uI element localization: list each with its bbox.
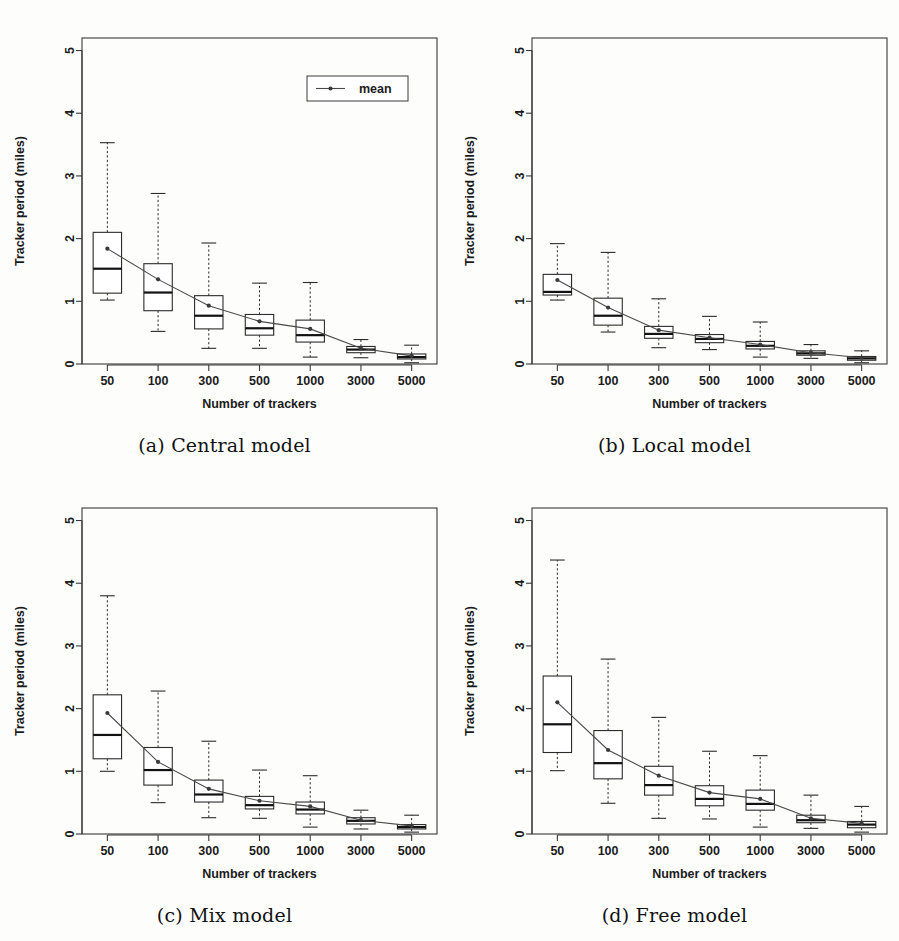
x-tick-label: 100 [598, 374, 619, 388]
panel-c-plot: 012345Tracker period (miles)501003005001… [0, 470, 449, 890]
y-axis-title: Tracker period (miles) [13, 606, 27, 736]
boxplot-box [695, 316, 723, 349]
panel-a-plot: 012345Tracker period (miles)501003005001… [0, 0, 449, 420]
mean-point [758, 342, 762, 346]
box-iqr [93, 695, 121, 759]
x-tick-label: 100 [598, 844, 619, 858]
y-tick-label: 5 [513, 517, 527, 524]
x-tick-label: 500 [249, 374, 270, 388]
mean-point [809, 816, 813, 820]
mean-point [606, 748, 610, 752]
x-axis-title: Number of trackers [652, 867, 767, 881]
x-tick-label: 300 [198, 374, 219, 388]
x-tick-label: 1000 [746, 374, 774, 388]
boxplot-box [847, 806, 875, 832]
mean-point [207, 787, 211, 791]
y-tick-label: 3 [63, 172, 77, 179]
mean-point [257, 319, 261, 323]
x-tick-label: 3000 [797, 844, 825, 858]
x-tick-label: 100 [148, 844, 169, 858]
panel-a-caption: (a) Central model [0, 434, 449, 456]
boxplot-box [296, 283, 324, 358]
x-tick-label: 3000 [797, 374, 825, 388]
y-tick-label: 1 [63, 768, 77, 775]
x-tick-label: 5000 [398, 374, 426, 388]
y-tick-label: 5 [63, 47, 77, 54]
x-tick-label: 500 [699, 844, 720, 858]
box-iqr [93, 232, 121, 293]
boxplot-box [543, 560, 571, 771]
x-tick-label: 5000 [398, 844, 426, 858]
boxplot-box [245, 283, 273, 348]
mean-point [410, 824, 414, 828]
legend: mean [307, 76, 408, 101]
panel-c-caption: (c) Mix model [0, 904, 449, 926]
x-tick-label: 300 [648, 374, 669, 388]
y-tick-label: 5 [513, 47, 527, 54]
boxplot-box [695, 751, 723, 819]
boxplot-box [594, 659, 622, 803]
mean-point [860, 356, 864, 360]
box-iqr [543, 676, 571, 752]
mean-point [860, 821, 864, 825]
boxplot-box [93, 143, 121, 300]
boxplot-box [245, 770, 273, 818]
x-tick-label: 500 [249, 844, 270, 858]
x-tick-label: 50 [550, 844, 564, 858]
y-tick-label: 4 [513, 110, 527, 117]
mean-point [156, 277, 160, 281]
x-tick-label: 1000 [296, 844, 324, 858]
boxplot-box [543, 244, 571, 300]
boxplot-box [144, 691, 172, 803]
mean-point [359, 346, 363, 350]
boxplot-box [93, 596, 121, 772]
y-tick-label: 0 [513, 360, 527, 367]
box-iqr [144, 264, 172, 311]
y-axis-title: Tracker period (miles) [463, 136, 477, 266]
x-tick-label: 300 [198, 844, 219, 858]
x-tick-label: 5000 [848, 374, 876, 388]
x-tick-label: 300 [648, 844, 669, 858]
mean-point [105, 247, 109, 251]
y-tick-label: 2 [513, 235, 527, 242]
boxplot-box [195, 741, 223, 817]
legend-label: mean [359, 82, 392, 96]
y-tick-label: 2 [63, 705, 77, 712]
x-tick-label: 50 [550, 374, 564, 388]
x-axis-title: Number of trackers [202, 867, 317, 881]
x-tick-label: 3000 [347, 374, 375, 388]
panel-free-model: 012345Tracker period (miles)501003005001… [450, 470, 899, 940]
x-tick-label: 1000 [746, 844, 774, 858]
boxplot-figure: 012345Tracker period (miles)501003005001… [0, 0, 899, 941]
mean-point [606, 305, 610, 309]
mean-point [657, 328, 661, 332]
y-tick-label: 1 [513, 298, 527, 305]
x-axis-title: Number of trackers [652, 397, 767, 411]
x-tick-label: 3000 [347, 844, 375, 858]
boxplot-box [144, 193, 172, 331]
boxplot-box [645, 299, 673, 348]
y-tick-label: 3 [63, 642, 77, 649]
plot-frame [82, 508, 437, 834]
panel-b-plot: 012345Tracker period (miles)501003005001… [450, 0, 899, 420]
mean-point [308, 327, 312, 331]
panel-local-model: 012345Tracker period (miles)501003005001… [450, 0, 899, 470]
x-tick-label: 500 [699, 374, 720, 388]
boxplot-box [195, 243, 223, 348]
boxplot-box [296, 776, 324, 827]
y-tick-label: 1 [513, 768, 527, 775]
mean-point [257, 799, 261, 803]
y-tick-label: 0 [513, 830, 527, 837]
y-tick-label: 4 [63, 580, 77, 587]
panel-d-caption: (d) Free model [450, 904, 899, 926]
mean-point [657, 774, 661, 778]
mean-point [555, 278, 559, 282]
mean-point [758, 797, 762, 801]
panel-mix-model: 012345Tracker period (miles)501003005001… [0, 470, 449, 940]
mean-point [707, 336, 711, 340]
boxplot-box [797, 795, 825, 828]
y-tick-label: 1 [63, 298, 77, 305]
panel-central-model: 012345Tracker period (miles)501003005001… [0, 0, 449, 470]
x-tick-label: 50 [100, 844, 114, 858]
x-tick-label: 100 [148, 374, 169, 388]
